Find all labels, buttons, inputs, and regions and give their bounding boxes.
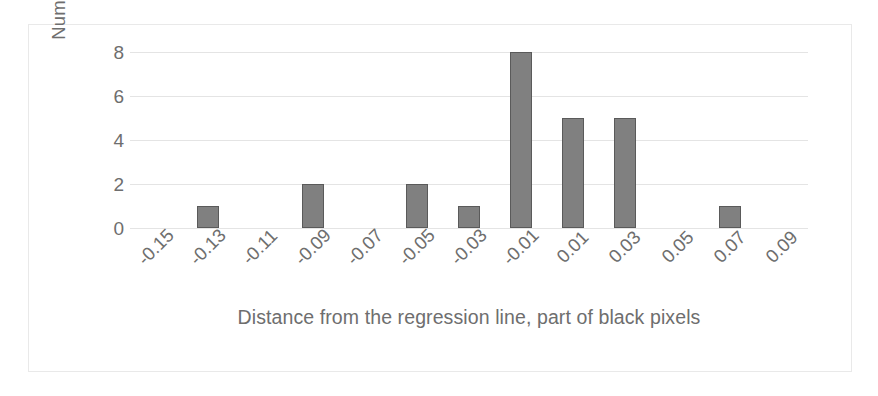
bar-slot [286, 52, 338, 228]
x-axis-tick-labels: -0.15-0.13-0.11-0.09-0.07-0.05-0.03-0.01… [130, 228, 808, 304]
x-tick-label: -0.03 [448, 226, 491, 269]
bar-slot [443, 52, 495, 228]
y-tick-label: 6 [92, 87, 124, 106]
x-axis-title: Distance from the regression line, part … [130, 306, 808, 329]
bar-slot [234, 52, 286, 228]
x-tick-label: -0.09 [291, 226, 334, 269]
x-tick-slot: 0.05 [652, 228, 704, 304]
y-tick-label: 8 [92, 43, 124, 62]
x-tick-label: -0.05 [395, 226, 438, 269]
bar-slot [599, 52, 651, 228]
x-tick-slot: 0.03 [599, 228, 651, 304]
bar[interactable] [302, 184, 324, 228]
bar-slot [130, 52, 182, 228]
x-tick-slot: -0.11 [234, 228, 286, 304]
x-tick-label: 0.07 [711, 228, 750, 267]
x-tick-label: -0.15 [135, 226, 178, 269]
bar-slot [704, 52, 756, 228]
bar-slot [756, 52, 808, 228]
x-tick-label: 0.01 [554, 228, 593, 267]
bar-slot [339, 52, 391, 228]
y-axis-title: Number of cases [44, 0, 74, 60]
x-tick-slot: 0.09 [756, 228, 808, 304]
x-tick-slot: -0.13 [182, 228, 234, 304]
x-tick-slot: -0.09 [286, 228, 338, 304]
x-tick-slot: -0.07 [339, 228, 391, 304]
x-tick-slot: 0.07 [704, 228, 756, 304]
x-tick-slot: -0.05 [391, 228, 443, 304]
x-tick-label: -0.01 [500, 226, 543, 269]
x-tick-slot: 0.01 [547, 228, 599, 304]
x-tick-slot: -0.15 [130, 228, 182, 304]
bar[interactable] [406, 184, 428, 228]
x-tick-label: 0.05 [658, 228, 697, 267]
y-tick-label: 4 [92, 131, 124, 150]
y-axis-tick-labels: 02468 [92, 52, 124, 228]
bar-slot [391, 52, 443, 228]
x-tick-slot: -0.01 [495, 228, 547, 304]
x-tick-label: -0.11 [239, 226, 281, 268]
chart-screenshot: Number of cases 02468 -0.15-0.13-0.11-0.… [0, 0, 878, 396]
plot-area [130, 52, 808, 228]
bar-slot [182, 52, 234, 228]
x-tick-label: -0.13 [187, 226, 230, 269]
bar-slot [495, 52, 547, 228]
x-tick-label: -0.07 [343, 226, 386, 269]
bar[interactable] [562, 118, 584, 228]
x-tick-label: 0.09 [763, 228, 802, 267]
bar-slot [652, 52, 704, 228]
x-tick-label: 0.03 [606, 228, 645, 267]
bar[interactable] [510, 52, 532, 228]
y-tick-label: 2 [92, 175, 124, 194]
bar[interactable] [719, 206, 741, 228]
bar-series [130, 52, 808, 228]
bar-slot [547, 52, 599, 228]
bar[interactable] [614, 118, 636, 228]
y-tick-label: 0 [92, 219, 124, 238]
x-tick-slot: -0.03 [443, 228, 495, 304]
